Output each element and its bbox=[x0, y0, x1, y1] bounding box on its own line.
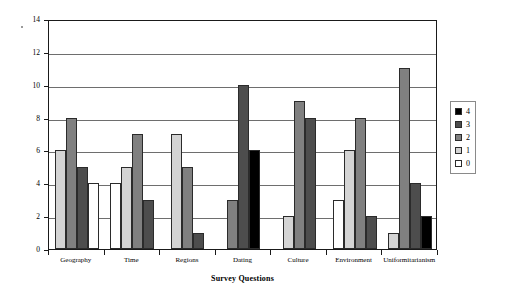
x-tick-mark bbox=[215, 250, 216, 255]
bar-group bbox=[327, 21, 383, 249]
legend-swatch-icon bbox=[455, 108, 462, 115]
legend-label: 1 bbox=[466, 147, 470, 155]
y-tick-label-14: 14 bbox=[18, 16, 40, 24]
bar bbox=[238, 85, 249, 249]
bar bbox=[294, 101, 305, 249]
bar-group bbox=[49, 21, 105, 249]
bar bbox=[344, 150, 355, 249]
bar bbox=[171, 134, 182, 249]
bar bbox=[388, 233, 399, 249]
chart-legend: 43210 bbox=[450, 101, 476, 174]
x-axis-title: Survey Questions bbox=[48, 274, 437, 283]
x-tick-mark bbox=[270, 250, 271, 255]
y-tick-label-10: 10 bbox=[18, 82, 40, 90]
y-tick-label-4: 4 bbox=[18, 180, 40, 188]
x-category-label: Environment bbox=[326, 256, 382, 265]
y-tick-label-0: 0 bbox=[18, 246, 40, 254]
legend-swatch-icon bbox=[455, 121, 462, 128]
x-category-label: Regions bbox=[159, 256, 215, 265]
bar-group bbox=[271, 21, 327, 249]
x-category-label: Culture bbox=[270, 256, 326, 265]
x-category-label: Geography bbox=[48, 256, 104, 265]
stray-speck bbox=[21, 26, 23, 28]
bar bbox=[283, 216, 294, 249]
x-tick-mark bbox=[437, 250, 438, 255]
bar bbox=[249, 150, 260, 249]
legend-label: 4 bbox=[466, 108, 470, 116]
x-tick-mark bbox=[48, 250, 49, 255]
x-category-label: Dating bbox=[215, 256, 271, 265]
bar bbox=[355, 118, 366, 249]
bar bbox=[333, 200, 344, 249]
bar-group bbox=[105, 21, 161, 249]
x-tick-mark bbox=[326, 250, 327, 255]
legend-row: 1 bbox=[455, 144, 470, 157]
legend-label: 0 bbox=[466, 160, 470, 168]
bar bbox=[121, 167, 132, 249]
bar bbox=[305, 118, 316, 249]
legend-row: 2 bbox=[455, 131, 470, 144]
x-tick-mark bbox=[159, 250, 160, 255]
x-category-label: Time bbox=[104, 256, 160, 265]
bar bbox=[88, 183, 99, 249]
legend-swatch-icon bbox=[455, 134, 462, 141]
bar-chart: Number of Students 02468101214 Geography… bbox=[0, 0, 505, 295]
legend-label: 3 bbox=[466, 121, 470, 129]
legend-row: 4 bbox=[455, 105, 470, 118]
legend-row: 0 bbox=[455, 157, 470, 170]
legend-label: 2 bbox=[466, 134, 470, 142]
y-tick-label-2: 2 bbox=[18, 213, 40, 221]
y-tick-label-8: 8 bbox=[18, 115, 40, 123]
bar bbox=[410, 183, 421, 249]
bar bbox=[66, 118, 77, 249]
bar bbox=[366, 216, 377, 249]
x-tick-mark bbox=[381, 250, 382, 255]
bar bbox=[55, 150, 66, 249]
bar bbox=[421, 216, 432, 249]
y-tick-label-6: 6 bbox=[18, 147, 40, 155]
bar bbox=[143, 200, 154, 249]
legend-row: 3 bbox=[455, 118, 470, 131]
bar-group bbox=[216, 21, 272, 249]
bar bbox=[399, 68, 410, 249]
bar bbox=[182, 167, 193, 249]
legend-swatch-icon bbox=[455, 160, 462, 167]
bar bbox=[132, 134, 143, 249]
bar bbox=[193, 233, 204, 249]
x-category-label: Uniformitarianism bbox=[381, 256, 437, 265]
x-tick-mark bbox=[104, 250, 105, 255]
legend-swatch-icon bbox=[455, 147, 462, 154]
plot-area bbox=[48, 20, 437, 250]
bar-group bbox=[160, 21, 216, 249]
bar bbox=[227, 200, 238, 249]
bar bbox=[110, 183, 121, 249]
bar-group bbox=[382, 21, 438, 249]
y-tick-label-12: 12 bbox=[18, 49, 40, 57]
bar bbox=[77, 167, 88, 249]
